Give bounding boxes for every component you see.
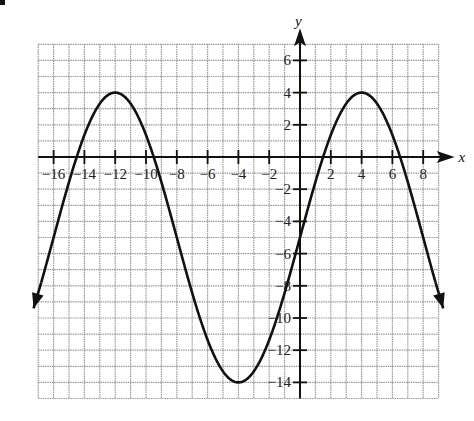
x-tick-label: −14 (73, 166, 97, 182)
x-tick-label: 4 (358, 166, 366, 182)
curve-left-arrow-icon (32, 292, 44, 308)
function-graph: xy−16−14−12−10−8−6−4−22468642−2−4−6−8−10… (0, 0, 474, 421)
x-tick-label: −12 (103, 166, 126, 182)
curve-right-arrow-icon (433, 292, 445, 308)
y-axis-label: y (293, 13, 302, 29)
y-tick-label: 4 (284, 85, 292, 101)
x-tick-label: −8 (169, 166, 185, 182)
x-tick-label: −2 (261, 166, 277, 182)
y-tick-label: −2 (275, 181, 291, 197)
x-tick-label: 6 (389, 166, 397, 182)
x-tick-label: 2 (327, 166, 335, 182)
y-tick-label: 2 (284, 117, 292, 133)
x-tick-label: −10 (134, 166, 157, 182)
y-tick-label: −6 (275, 246, 291, 262)
y-tick-label: −4 (275, 213, 291, 229)
x-tick-label: −16 (42, 166, 66, 182)
y-tick-label: −14 (268, 374, 292, 390)
x-tick-label: 8 (419, 166, 427, 182)
y-tick-label: −12 (268, 342, 291, 358)
y-tick-label: 6 (284, 52, 292, 68)
x-tick-label: −4 (230, 166, 246, 182)
x-tick-label: −6 (200, 166, 216, 182)
x-axis-label: x (458, 149, 466, 165)
